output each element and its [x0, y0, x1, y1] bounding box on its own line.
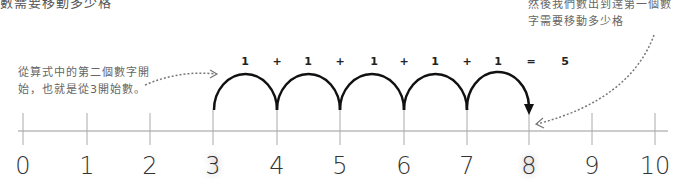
- eq-result: 5: [561, 55, 569, 68]
- start-arrow-icon: [210, 70, 217, 78]
- eq-plus: +: [399, 55, 408, 68]
- label-10: 10: [640, 152, 671, 180]
- eq-plus: +: [335, 55, 344, 68]
- label-6: 6: [396, 152, 411, 180]
- label-9: 9: [584, 152, 599, 180]
- label-7: 7: [459, 152, 474, 180]
- arrowhead-icon: [524, 104, 534, 115]
- start-pointer: [145, 73, 216, 85]
- ticks: [23, 110, 655, 145]
- label-1: 1: [79, 152, 94, 180]
- jump-arcs: [214, 72, 529, 110]
- label-2: 2: [142, 152, 157, 180]
- label-4: 4: [269, 152, 284, 180]
- label-8-end: 8: [521, 152, 536, 180]
- label-0: 0: [15, 152, 30, 180]
- end-pointer: [537, 35, 654, 124]
- end-arrow-icon: [536, 118, 544, 128]
- eq-term: 1: [304, 55, 312, 68]
- eq-term: 1: [241, 55, 249, 68]
- eq-plus: +: [462, 55, 471, 68]
- label-5: 5: [332, 152, 347, 180]
- eq-term: 1: [431, 55, 439, 68]
- eq-term: 1: [370, 55, 378, 68]
- eq-term: 1: [494, 55, 502, 68]
- eq-plus: +: [272, 55, 281, 68]
- label-3-start: 3: [205, 152, 220, 180]
- eq-equals: =: [526, 55, 535, 68]
